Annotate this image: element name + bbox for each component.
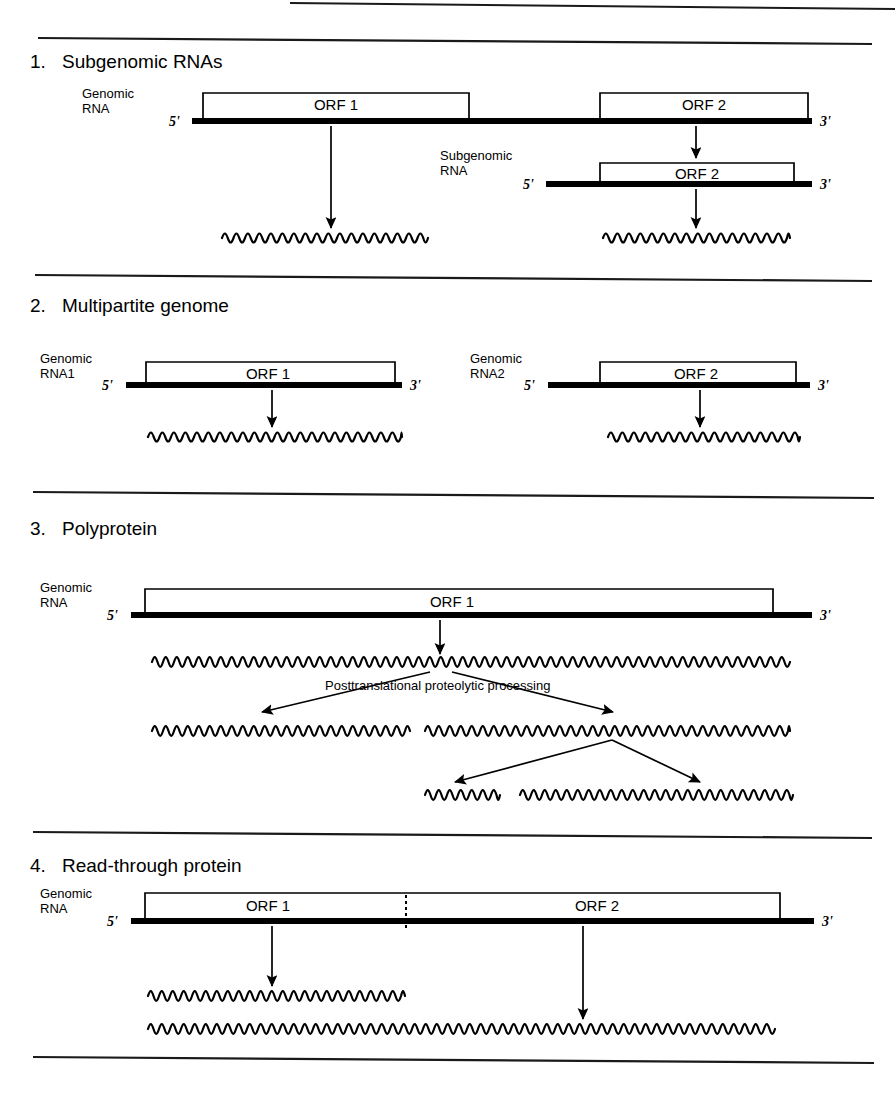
rna-label-line: RNA [40,595,68,610]
annotations-layer: Posttranslational proteolytic processing [325,678,550,693]
protein-wave-s3-cleaved-right [425,726,790,736]
protein-wave-s3-polyprotein [152,657,790,667]
orf-label: ORF 2 [575,897,619,914]
rule-section-3-4 [33,832,872,838]
section-heading-read-through-protein: 4.Read-through protein [30,855,242,876]
rule-section-2-3 [33,492,874,498]
orf-label: ORF 2 [674,365,718,382]
rna-label-line: RNA2 [470,366,505,381]
five-prime-label: 5' [102,378,113,393]
rna-label-line: Genomic [82,86,135,101]
arrows-layer [262,126,700,1019]
five-prime-label: 5' [524,378,535,393]
three-prime-label: 3' [819,114,831,129]
three-prime-label: 3' [819,608,831,623]
rna-construct-s2-genomic-rna1: GenomicRNA15'3'ORF 1 [40,351,421,393]
five-prime-label: 5' [107,608,118,623]
protein-wave-s4-readthrough-protein [148,1024,775,1034]
three-prime-label: 3' [409,378,421,393]
annotation-posttranslational-processing: Posttranslational proteolytic processing [325,678,550,693]
rna-label-line: Genomic [40,580,93,595]
diagram-canvas: GenomicRNA5'3'ORF 1ORF 2SubgenomicRNA5'3… [0,0,895,1094]
rna-label-line: Genomic [40,886,93,901]
rule-section-1-2 [35,275,872,281]
orf-label: ORF 1 [246,365,290,382]
orf-label: ORF 2 [675,165,719,182]
rna-label-line: RNA [440,163,468,178]
protein-wave-s1-orf2-protein [603,234,790,243]
protein-wave-s2-rna2-protein [608,433,800,442]
section-headings-layer: 1.Subgenomic RNAs2.Multipartite genome3.… [30,51,242,876]
rule-top-partial [290,3,895,9]
rna-construct-s2-genomic-rna2: GenomicRNA25'3'ORF 2 [470,351,829,393]
orf-label: ORF 1 [430,593,474,610]
orf-label: ORF 1 [246,897,290,914]
protein-wave-s3-final-short [425,790,500,800]
rna-label-line: RNA [40,901,68,916]
orf-label: ORF 2 [682,96,726,113]
protein-wave-s3-final-long [520,790,793,800]
five-prime-label: 5' [523,177,534,192]
section-title: Multipartite genome [62,295,229,316]
rna-label-line: Genomic [40,351,93,366]
rna-construct-s4-genomic: GenomicRNA5'3'ORF 1ORF 2 [40,886,833,930]
orf-box [145,893,780,921]
rna-construct-s1-genomic: GenomicRNA5'3'ORF 1ORF 2 [82,86,831,129]
section-number: 1. [30,51,46,72]
section-heading-polyprotein: 3.Polyprotein [30,518,157,539]
rna-construct-s3-genomic: GenomicRNA5'3'ORF 1 [40,580,831,623]
rule-footer [33,1057,874,1063]
rna-label-line: RNA [82,101,110,116]
section-heading-multipartite-genome: 2.Multipartite genome [30,295,229,316]
rna-constructs-layer: GenomicRNA5'3'ORF 1ORF 2SubgenomicRNA5'3… [40,86,833,930]
protein-wave-s1-orf1-protein [222,234,428,243]
five-prime-label: 5' [169,114,180,129]
figure-root: GenomicRNA5'3'ORF 1ORF 2SubgenomicRNA5'3… [0,0,895,1094]
protein-wave-s2-rna1-protein [148,433,402,442]
section-number: 3. [30,518,46,539]
rna-construct-s1-subgenomic: SubgenomicRNA5'3'ORF 2 [440,148,831,192]
protein-wave-s3-cleaved-left [152,726,410,736]
section-title: Subgenomic RNAs [62,51,223,72]
arrow-s3-cleave2-to-left [455,740,612,782]
section-title: Read-through protein [62,855,242,876]
orf-label: ORF 1 [314,96,358,113]
protein-wave-s4-orf1-protein [148,991,405,1001]
three-prime-label: 3' [821,914,833,929]
rule-header [38,38,872,44]
rna-label-line: Genomic [470,351,523,366]
rna-label-line: Subgenomic [440,148,513,163]
three-prime-label: 3' [817,378,829,393]
section-heading-subgenomic-rnas: 1.Subgenomic RNAs [30,51,223,72]
section-number: 2. [30,295,46,316]
section-number: 4. [30,855,46,876]
rna-label-line: RNA1 [40,366,75,381]
five-prime-label: 5' [107,914,118,929]
section-title: Polyprotein [62,518,157,539]
arrow-s3-cleave2-to-right [612,740,700,782]
three-prime-label: 3' [819,177,831,192]
